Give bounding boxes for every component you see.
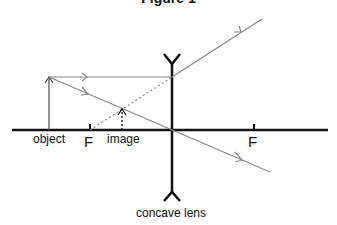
ray-diagram [0,0,337,225]
image-arrow [118,109,126,130]
object-label: object [33,132,65,146]
image-label: image [107,132,140,146]
ray-diverging [172,19,262,77]
object-arrow [45,77,53,130]
lens-label: concave lens [136,206,206,220]
focal-label-right: F [248,133,257,150]
ray-center [49,77,270,172]
virtual-ray [90,77,172,130]
focal-label-left: F [84,133,93,150]
ray-parallel [49,73,172,81]
